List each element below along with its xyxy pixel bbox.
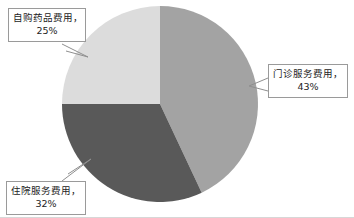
- callout-outpatient-label: 门诊服务费用，: [273, 68, 343, 81]
- callout-inpatient[interactable]: 住院服务费用， 32%: [6, 181, 86, 215]
- callout-outpatient-value: 43%: [273, 81, 343, 94]
- callout-self-purchase-value: 25%: [13, 25, 81, 38]
- callout-self-purchase[interactable]: 自购药品费用， 25%: [8, 8, 86, 42]
- leader-line-inpatient: [62, 159, 91, 181]
- callout-inpatient-value: 32%: [11, 198, 81, 211]
- callout-self-purchase-label: 自购药品费用，: [13, 12, 81, 25]
- leader-line-self-purchase: [62, 44, 88, 57]
- callout-inpatient-label: 住院服务费用，: [11, 185, 81, 198]
- callout-outpatient[interactable]: 门诊服务费用， 43%: [268, 64, 348, 98]
- chart-canvas: 自购药品费用， 25% 门诊服务费用， 43% 住院服务费用， 32%: [0, 0, 354, 218]
- leader-line-outpatient: [249, 78, 268, 91]
